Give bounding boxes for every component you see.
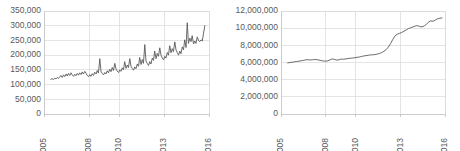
right-xtick-2: 2010 <box>350 138 360 151</box>
right-ytick-6: 12,000,000 <box>235 5 278 15</box>
right-line-chart: 02,000,0004,000,0006,000,0008,000,00010,… <box>230 0 460 151</box>
left-ytick-7: 350,000 <box>10 5 41 15</box>
right-ytick-3: 6,000,000 <box>240 57 278 67</box>
right-chart-series-line <box>288 18 442 63</box>
left-chart-axes <box>44 11 209 117</box>
left-ytick-4: 200,000 <box>10 49 41 59</box>
left-line-chart: 050,000100,000150,000200,000250,000300,0… <box>0 0 230 151</box>
right-xtick-0: 2005 <box>275 138 285 151</box>
left-chart-x-tick-labels: 20052008201020132016 <box>38 138 213 151</box>
chart-panel-left: 050,000100,000150,000200,000250,000300,0… <box>0 0 230 151</box>
left-ytick-2: 100,000 <box>10 79 41 89</box>
right-ytick-2: 4,000,000 <box>240 74 278 84</box>
left-ytick-1: 50,000 <box>15 94 41 104</box>
left-chart-gridlines <box>44 11 209 114</box>
right-chart-y-tick-labels: 02,000,0004,000,0006,000,0008,000,00010,… <box>235 5 278 118</box>
right-ytick-4: 8,000,000 <box>240 40 278 50</box>
right-xtick-1: 2008 <box>320 138 330 151</box>
left-xtick-1: 2008 <box>83 138 93 151</box>
right-xtick-3: 2013 <box>395 138 405 151</box>
left-ytick-6: 300,000 <box>10 20 41 30</box>
right-ytick-1: 2,000,000 <box>240 91 278 101</box>
left-chart-y-tick-labels: 050,000100,000150,000200,000250,000300,0… <box>10 5 41 118</box>
right-chart-x-tick-labels: 20052008201020132016 <box>275 138 449 151</box>
dual-chart-figure: 050,000100,000150,000200,000250,000300,0… <box>0 0 460 151</box>
chart-panel-right: 02,000,0004,000,0006,000,0008,000,00010,… <box>230 0 460 151</box>
right-ytick-5: 10,000,000 <box>235 22 278 32</box>
left-xtick-3: 2013 <box>158 138 168 151</box>
left-xtick-2: 2010 <box>113 138 123 151</box>
right-xtick-4: 2016 <box>439 138 449 151</box>
right-ytick-0: 0 <box>273 108 278 118</box>
left-ytick-0: 0 <box>36 108 41 118</box>
left-ytick-3: 150,000 <box>10 64 41 74</box>
left-ytick-5: 250,000 <box>10 35 41 45</box>
left-xtick-4: 2016 <box>203 138 213 151</box>
left-xtick-0: 2005 <box>38 138 48 151</box>
left-chart-series-line <box>51 23 205 80</box>
